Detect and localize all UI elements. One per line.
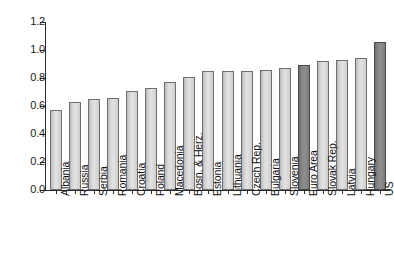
x-axis-label: Slovak Rep. [327, 140, 338, 196]
x-tick-mark [132, 190, 133, 194]
x-tick-mark [380, 190, 381, 194]
bar-us [374, 42, 386, 190]
x-axis-label: Romania [117, 155, 128, 196]
x-axis-label: Serbia [98, 166, 109, 196]
y-tick-label: 0.2 [11, 156, 45, 167]
y-tick-label: 1.2 [11, 16, 45, 27]
x-tick-mark [323, 190, 324, 194]
x-tick-mark [151, 190, 152, 194]
x-tick-mark [228, 190, 229, 194]
x-axis-label: Euro Area [308, 150, 319, 196]
y-tick-label: 1.0 [11, 44, 45, 55]
x-tick-mark [189, 190, 190, 194]
x-tick-mark [342, 190, 343, 194]
x-tick-mark [304, 190, 305, 194]
x-axis-label: Russia [79, 165, 90, 197]
x-axis-label: Macedonia [174, 146, 185, 196]
bar-slot [374, 22, 386, 190]
x-tick-mark [361, 190, 362, 194]
bar-slot [336, 22, 348, 190]
x-axis-label: Estonia [212, 162, 223, 196]
x-tick-mark [75, 190, 76, 194]
x-tick-mark [56, 190, 57, 194]
y-tick-label: 0.6 [11, 100, 45, 111]
x-tick-mark [266, 190, 267, 194]
x-axis-label: Bulgaria [270, 158, 281, 196]
y-tick-label: 0.0 [11, 184, 45, 195]
x-axis-label: Bosn. & Herz. [193, 133, 204, 196]
x-tick-mark [94, 190, 95, 194]
x-axis-label: Hungary [365, 157, 376, 196]
x-tick-mark [170, 190, 171, 194]
x-axis-label: Poland [155, 164, 166, 196]
x-tick-mark [247, 190, 248, 194]
x-tick-mark [208, 190, 209, 194]
x-axis-label: Czech Rep. [251, 142, 262, 196]
x-tick-mark [113, 190, 114, 194]
y-tick-label: 0.8 [11, 72, 45, 83]
x-axis-label: Croatia [136, 163, 147, 196]
bar-chart: 1.21.00.80.60.40.20.0 AlbaniaRussiaSerbi… [0, 0, 394, 273]
x-axis-label: Slovenia [289, 157, 300, 196]
x-axis-label: US [384, 182, 394, 196]
x-tick-mark [285, 190, 286, 194]
x-axis-label: Lithuania [232, 154, 243, 196]
x-axis-label: Latvia [346, 169, 357, 196]
y-tick-label: 0.4 [11, 128, 45, 139]
x-axis-label: Albania [60, 162, 71, 196]
